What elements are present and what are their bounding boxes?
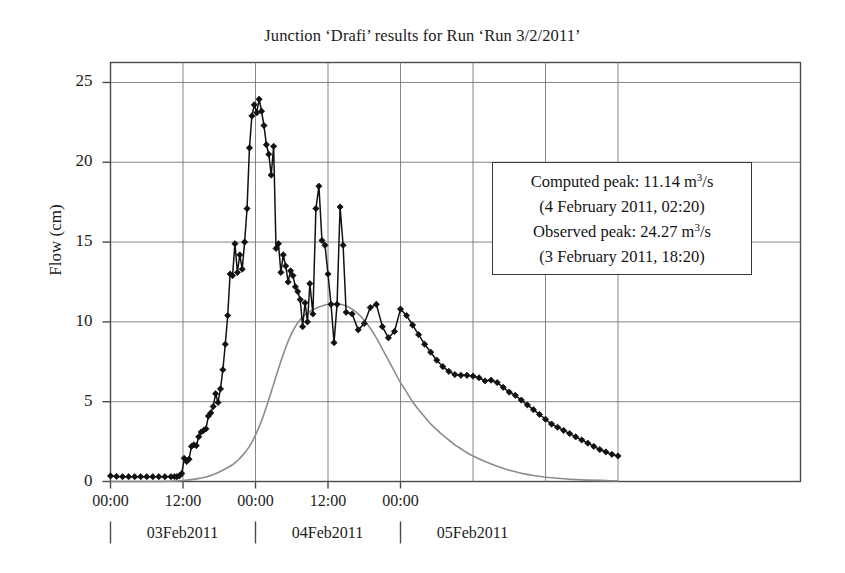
plot-area — [0, 0, 845, 573]
observed-series-markers — [107, 96, 621, 480]
peak-annotation-box: Computed peak: 11.14 m3/s (4 February 20… — [492, 162, 752, 275]
legend-line-observed-peak: Observed peak: 24.27 m3/s — [493, 219, 751, 244]
legend-line-computed-peak: Computed peak: 11.14 m3/s — [493, 169, 751, 194]
chart-screenshot: Junction ‘Drafi’ results for Run ‘Run 3/… — [0, 0, 845, 573]
y-tick-label: 5 — [59, 391, 93, 411]
y-tick-label: 10 — [59, 311, 93, 331]
y-tick-label: 0 — [59, 471, 93, 491]
x-tick-label: 00:00 — [356, 492, 446, 510]
y-tick-label: 25 — [59, 71, 93, 91]
observed-series-line — [111, 99, 619, 477]
x-axis-ticks — [111, 482, 401, 489]
computed-series-line — [111, 304, 619, 482]
y-tick-label: 20 — [59, 151, 93, 171]
legend-line-observed-date: (3 February 2011, 18:20) — [493, 244, 751, 269]
y-axis-ticks — [103, 82, 111, 481]
legend-line-computed-date: (4 February 2011, 02:20) — [493, 194, 751, 219]
y-tick-label: 15 — [59, 231, 93, 251]
x-date-label: 05Feb2011 — [398, 524, 548, 542]
x-date-label: 04Feb2011 — [253, 524, 403, 542]
x-date-label: 03Feb2011 — [108, 524, 258, 542]
